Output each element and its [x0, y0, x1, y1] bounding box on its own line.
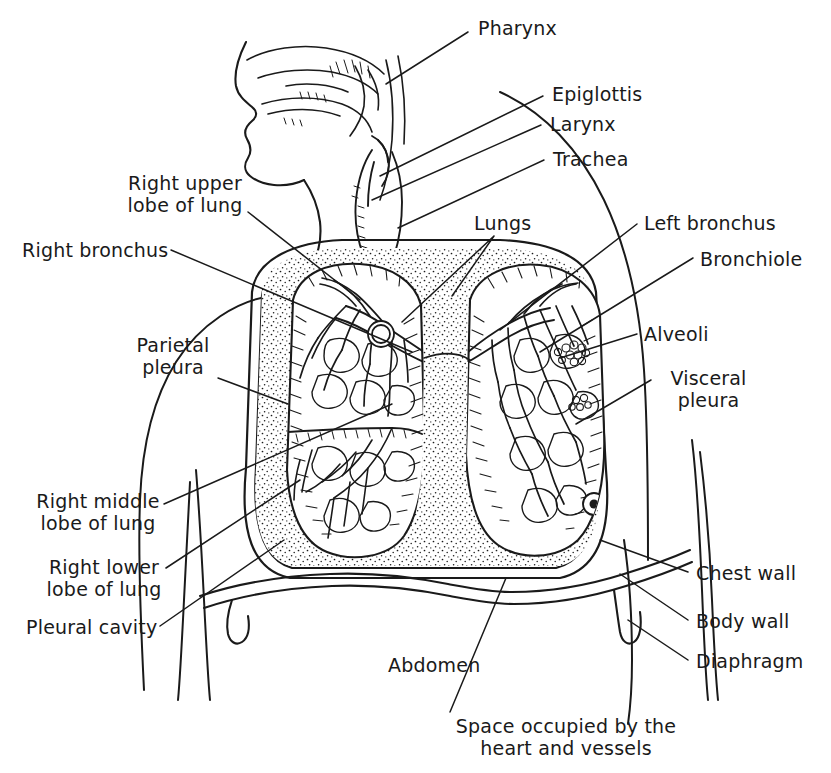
label-trachea: Trachea: [553, 148, 629, 170]
label-body-wall: Body wall: [696, 610, 790, 632]
label-parietal-pleura: Parietal pleura: [118, 334, 228, 378]
label-pleural-cavity: Pleural cavity: [26, 616, 157, 638]
epiglottis-icon: [372, 136, 389, 186]
label-epiglottis: Epiglottis: [552, 83, 642, 105]
label-right-bronchus: Right bronchus: [22, 239, 168, 261]
label-diaphragm: Diaphragm: [696, 650, 803, 672]
label-heart-space: Space occupied by the heart and vessels: [421, 715, 711, 759]
label-chest-wall: Chest wall: [696, 562, 796, 584]
label-right-middle-lobe: Right middle lobe of lung: [28, 490, 168, 534]
label-lungs: Lungs: [474, 212, 531, 234]
label-right-lower-lobe: Right lower lobe of lung: [36, 556, 172, 600]
anatomy-diagram-page: Pharynx Epiglottis Larynx Trachea Right …: [0, 0, 831, 773]
label-right-upper-lobe: Right upper lobe of lung: [120, 172, 250, 216]
larynx-icon: [355, 150, 402, 262]
label-pharynx: Pharynx: [478, 17, 557, 39]
label-left-bronchus: Left bronchus: [644, 212, 776, 234]
label-abdomen: Abdomen: [388, 654, 480, 676]
label-larynx: Larynx: [550, 113, 616, 135]
label-alveoli: Alveoli: [644, 323, 709, 345]
label-bronchiole: Bronchiole: [700, 248, 802, 270]
oral-nasal-cavity: [247, 47, 405, 201]
label-visceral-pleura: Visceral pleura: [656, 367, 761, 411]
